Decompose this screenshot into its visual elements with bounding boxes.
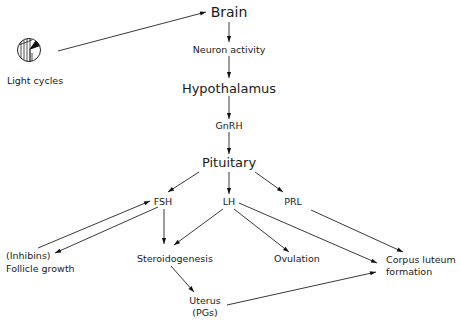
- edge-lh-to-steroidogenesis: [174, 209, 223, 245]
- node-prl: PRL: [284, 196, 302, 207]
- edge-prl-to-corpus: [311, 210, 403, 252]
- node-lh: LH: [223, 196, 235, 207]
- node-gnrh: GnRH: [215, 120, 242, 131]
- edge-pituitary-to-prl: [255, 172, 283, 192]
- edge-steroidogenesis-to-uterus: [171, 266, 194, 292]
- edge-uterus-to-corpus: [227, 272, 376, 305]
- reproductive-hormone-diagram: Light cycles Brain Neuron activity Hypot…: [0, 0, 460, 323]
- edge-fsh-to-follicle: [55, 207, 158, 253]
- node-corpus-luteum: Corpus luteum: [386, 254, 456, 265]
- node-inhibins: (Inhibins): [6, 250, 51, 261]
- node-follicle-growth: Follicle growth: [6, 263, 75, 274]
- node-pituitary: Pituitary: [202, 155, 257, 170]
- node-hypothalamus: Hypothalamus: [182, 81, 276, 96]
- edge-light-to-brain: [58, 12, 206, 51]
- edge-pituitary-to-fsh: [168, 172, 199, 192]
- node-brain: Brain: [211, 4, 248, 20]
- edge-inhibins-to-fsh: [38, 201, 150, 248]
- node-steroidogenesis: Steroidogenesis: [137, 253, 213, 264]
- node-uterus-pgs: (PGs): [192, 307, 217, 318]
- node-neuron-activity: Neuron activity: [193, 44, 266, 55]
- node-ovulation: Ovulation: [274, 253, 320, 264]
- light-cycles-icon: [18, 36, 41, 64]
- edge-lh-to-ovulation: [234, 209, 289, 252]
- node-uterus: Uterus: [189, 295, 220, 306]
- node-light-cycles: Light cycles: [7, 75, 63, 86]
- node-corpus-luteum-formation: formation: [386, 266, 432, 277]
- node-fsh: FSH: [154, 196, 172, 207]
